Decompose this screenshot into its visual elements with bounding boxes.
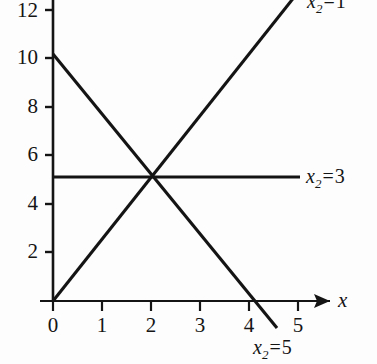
y-tick-label-10: 10 xyxy=(4,47,38,68)
x-tick-label-1: 1 xyxy=(90,315,114,336)
x-tick-label-0: 0 xyxy=(41,315,65,336)
x-tick-label-4: 4 xyxy=(237,315,261,336)
series-label-x2-eq-1: x2=1 xyxy=(307,0,346,15)
series-line-x2-eq-5 xyxy=(53,54,277,328)
series-label-x2-eq-5: x2=5 xyxy=(253,337,292,361)
series-label-x2-eq-3-var: x xyxy=(306,165,315,187)
series-label-x2-eq-1-operator: = xyxy=(322,0,335,12)
x-tick-label-2: 2 xyxy=(139,315,163,336)
y-tick-label-8: 8 xyxy=(4,96,38,117)
y-tick-label-4: 4 xyxy=(4,193,38,214)
y-tick-label-6: 6 xyxy=(4,144,38,165)
series-label-x2-eq-3-value: 3 xyxy=(335,165,345,187)
chart-figure: 12 10 8 6 4 2 0 1 2 3 4 5 x x2=1 x2=3 x2… xyxy=(0,0,377,364)
x-axis-label: x xyxy=(338,290,347,311)
series-label-x2-eq-3-operator: = xyxy=(321,165,334,187)
y-tick-label-2: 2 xyxy=(4,241,38,262)
x-tick-label-3: 3 xyxy=(188,315,212,336)
series-label-x2-eq-1-value: 1 xyxy=(336,0,346,12)
series-label-x2-eq-5-var: x xyxy=(253,336,262,358)
y-tick-label-12: 12 xyxy=(4,0,38,21)
series-line-x2-eq-1 xyxy=(53,0,303,301)
series-label-x2-eq-5-operator: = xyxy=(268,336,281,358)
x-tick-label-5: 5 xyxy=(286,315,310,336)
series-label-x2-eq-3: x2=3 xyxy=(306,166,345,190)
series-label-x2-eq-5-value: 5 xyxy=(282,336,292,358)
series-label-x2-eq-1-var: x xyxy=(307,0,316,12)
